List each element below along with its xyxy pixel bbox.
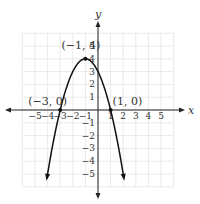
y-tick-label: −3 [82, 143, 96, 153]
x-axis-label: x [188, 104, 195, 117]
point-label: (1, 0) [113, 95, 143, 108]
point-marker [83, 57, 87, 61]
x-tick-label: −2 [66, 111, 79, 121]
point-label: (−1, 4) [61, 39, 100, 52]
y-axis-label: y [94, 8, 102, 21]
y-tick-label: −1 [82, 118, 95, 128]
y-tick-label: −4 [82, 156, 96, 166]
x-tick-label: 2 [120, 111, 126, 121]
x-tick-label: 3 [133, 111, 139, 121]
point-marker [109, 108, 113, 112]
x-tick-label: −5 [28, 111, 42, 121]
point-label: (−3, 0) [28, 95, 67, 108]
point-marker [58, 108, 62, 112]
y-tick-label: 2 [89, 79, 95, 89]
x-tick-label: 5 [158, 111, 164, 121]
x-tick-label: 4 [146, 111, 152, 121]
y-tick-label: 1 [89, 92, 95, 102]
y-tick-label: −2 [82, 131, 95, 141]
graph: −5−4−3−2−11234554321−1−2−3−4−5 (−1, 4)(−… [0, 0, 200, 204]
y-tick-label: −5 [82, 169, 96, 179]
y-tick-label: 3 [89, 67, 95, 77]
x-tick-label: −4 [41, 111, 55, 121]
